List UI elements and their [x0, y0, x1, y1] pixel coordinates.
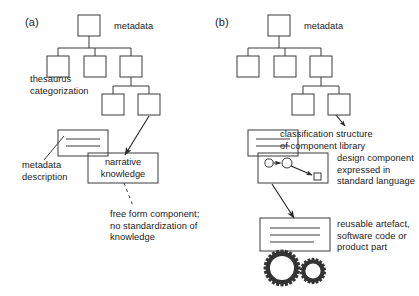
panel-b-classification-label: classification structure of component li…: [280, 129, 373, 152]
panel-a-metadata-description-label: metadata description: [22, 160, 68, 183]
graph-node-2: [282, 158, 292, 168]
panel-a-metadata-label: metadata: [114, 21, 153, 33]
panel-b-reusable-artefact-label: reusable artefact, software code or prod…: [337, 219, 410, 254]
figure-root: (a) metadata thesaurus categorization me…: [0, 0, 419, 296]
tree-node-b32: [328, 94, 350, 115]
panel-a-freeform-label: free form component; no standardization …: [110, 209, 199, 244]
tree-node-root: [78, 15, 100, 36]
tree-node-a31: [102, 94, 124, 115]
tree-node-b1: [237, 56, 259, 77]
panel-b-letter: (b): [215, 16, 229, 29]
panel-b-design-component-box: [258, 153, 328, 218]
arrow-to-classification: [336, 115, 345, 126]
gears-icon: [264, 250, 327, 287]
panel-a-thesaurus-label: thesaurus categorization: [30, 74, 89, 97]
panel-b-design-component-label: design component expressed in standard l…: [337, 153, 415, 188]
tree-node-b31: [292, 94, 314, 115]
tree-node-a3: [120, 56, 142, 77]
tree-node-root-b: [268, 15, 290, 36]
tree-node-b3: [310, 56, 332, 77]
graph-node-1: [265, 159, 273, 167]
panel-a-letter: (a): [25, 16, 39, 29]
graph-edge-2: [291, 166, 312, 175]
panel-a-document: [44, 130, 108, 160]
panel-b-artefact-box: [260, 218, 330, 251]
arrow-to-artefact: [272, 184, 294, 218]
narrative-knowledge-text: narrative knowledge: [88, 157, 158, 180]
tree-node-a32: [138, 94, 160, 115]
gear-large: [264, 250, 301, 287]
tree-node-b2: [274, 56, 296, 77]
arrow-to-narrative: [125, 116, 149, 155]
graph-node-3: [314, 173, 321, 180]
gear-small: [300, 258, 326, 284]
panel-b-metadata-label: metadata: [304, 21, 343, 33]
dashed-leader-freeform: [124, 183, 133, 206]
